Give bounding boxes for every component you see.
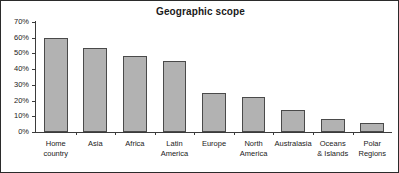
y-axis-tick-label: 70%: [14, 17, 29, 26]
bar[interactable]: [242, 97, 266, 132]
x-axis-label-line: Home: [37, 139, 75, 149]
bar-slot: [234, 22, 274, 132]
x-axis-tick-mark: [273, 132, 274, 135]
x-axis-tick-slot: [273, 132, 313, 136]
y-axis-tick-label: 0%: [18, 127, 29, 136]
x-axis-label-line: Latin: [156, 139, 194, 149]
x-axis-label-line: Europe: [195, 139, 233, 149]
bar[interactable]: [163, 61, 187, 132]
x-axis-label-line: North: [235, 139, 273, 149]
bar[interactable]: [83, 48, 107, 132]
x-axis-tick-slot: [313, 132, 353, 136]
y-axis-tick-label: 10%: [14, 111, 29, 120]
x-axis-label-line: & Islands: [314, 149, 352, 159]
x-axis-tick-slot: [36, 132, 76, 136]
bar[interactable]: [202, 93, 226, 132]
x-axis-label: Asia: [76, 139, 116, 158]
bar-slot: [313, 22, 353, 132]
bar-slot: [194, 22, 234, 132]
x-axis-label: NorthAmerica: [234, 139, 274, 158]
bar[interactable]: [123, 56, 147, 132]
bar-slot: [115, 22, 155, 132]
bar-slot: [155, 22, 195, 132]
bar[interactable]: [360, 123, 384, 132]
x-axis-ticks: [36, 132, 392, 136]
x-axis-tick-slot: [194, 132, 234, 136]
y-axis-tick-label: 60%: [14, 33, 29, 42]
x-axis-label-line: Regions: [354, 149, 392, 159]
x-axis-tick-mark: [155, 132, 156, 135]
x-axis-label-line: Polar: [354, 139, 392, 149]
x-axis-label: Homecountry: [36, 139, 76, 158]
x-axis-label: Australasia: [273, 139, 313, 158]
y-axis-tick-label: 50%: [14, 48, 29, 57]
x-axis-label: Oceans& Islands: [313, 139, 353, 158]
x-axis-label-line: Asia: [77, 139, 115, 149]
x-axis-tick-mark: [76, 132, 77, 135]
bar-slot: [36, 22, 76, 132]
x-axis-labels: HomecountryAsiaAfricaLatinAmericaEuropeN…: [36, 139, 392, 158]
x-axis-tick-mark: [313, 132, 314, 135]
bar-slot: [273, 22, 313, 132]
bar-slot: [76, 22, 116, 132]
x-axis-tick-slot: [76, 132, 116, 136]
x-axis-label-line: Africa: [116, 139, 154, 149]
x-axis-tick-slot: [115, 132, 155, 136]
y-axis-tick-label: 30%: [14, 80, 29, 89]
x-axis-label: PolarRegions: [353, 139, 393, 158]
x-axis-tick-slot: [155, 132, 195, 136]
bars-container: [36, 22, 392, 132]
x-axis-label-line: Oceans: [314, 139, 352, 149]
x-axis-tick-slot: [353, 132, 393, 136]
x-axis-label: Africa: [115, 139, 155, 158]
x-axis-label-line: America: [156, 149, 194, 159]
x-axis-tick-slot: [234, 132, 274, 136]
bar-slot: [353, 22, 393, 132]
x-axis-label-line: America: [235, 149, 273, 159]
bar[interactable]: [281, 110, 305, 132]
x-axis-tick-mark: [194, 132, 195, 135]
chart-title: Geographic scope: [1, 6, 399, 17]
y-axis-tick-label: 20%: [14, 96, 29, 105]
chart-frame: Geographic scope 70%60%50%40%30%20%10%0%…: [0, 0, 399, 173]
x-axis-label: LatinAmerica: [155, 139, 195, 158]
bar[interactable]: [321, 119, 345, 132]
x-axis-tick-mark: [115, 132, 116, 135]
x-axis-label: Europe: [194, 139, 234, 158]
y-axis-tick-label: 40%: [14, 64, 29, 73]
x-axis-label-line: country: [37, 149, 75, 159]
x-axis-tick-mark: [234, 132, 235, 135]
x-axis-label-line: Australasia: [274, 139, 312, 149]
bar[interactable]: [44, 38, 68, 132]
x-axis-tick-mark: [353, 132, 354, 135]
